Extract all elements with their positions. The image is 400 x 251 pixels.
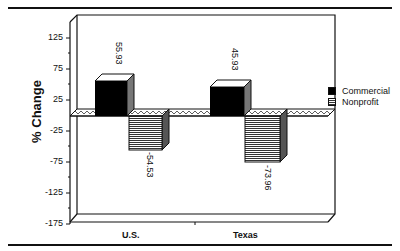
y-tick-label: -125 [33, 187, 63, 197]
legend-item-commercial: Commercial [328, 85, 390, 96]
category-label-texas: Texas [233, 230, 258, 240]
bar-tx-commercial [210, 80, 251, 116]
legend-item-nonprofit: Nonprofit [328, 96, 390, 107]
commercial-swatch-icon [328, 87, 336, 95]
bar-us-commercial [95, 74, 134, 116]
category-label-us: U.S. [122, 230, 140, 240]
legend: Commercial Nonprofit [328, 85, 390, 107]
data-label-us-commercial: 55.93 [114, 42, 124, 65]
data-label-tx-nonprofit: -73.96 [263, 165, 273, 191]
y-tick-label: 25 [33, 94, 63, 104]
legend-label: Nonprofit [342, 97, 379, 107]
data-label-us-nonprofit: -54.53 [145, 152, 155, 178]
data-label-tx-commercial: 45.93 [230, 48, 240, 71]
y-tick-label: 75 [33, 63, 63, 73]
legend-label: Commercial [342, 86, 390, 96]
nonprofit-swatch-icon [328, 98, 336, 106]
y-tick-label: -75 [33, 156, 63, 166]
bar-tx-nonprofit [245, 109, 287, 162]
plot-frame [70, 15, 335, 222]
y-tick-label: 125 [33, 32, 63, 42]
y-tick-label: -175 [33, 218, 63, 228]
y-tick-label: -25 [33, 125, 63, 135]
